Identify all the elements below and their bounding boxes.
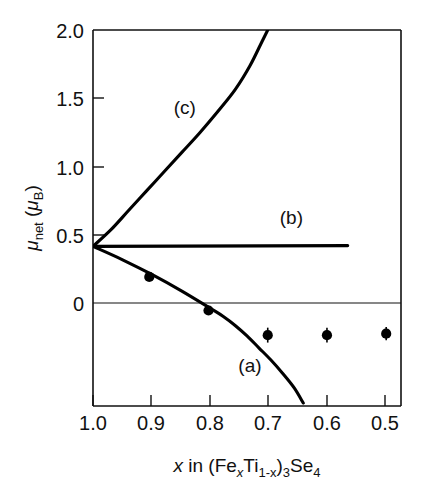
x-tick-label-1-0: 1.0 [79, 412, 107, 434]
chart-plot: 2.0 1.5 1.0 0.5 0 1.0 0.9 0.8 0.7 0.6 0.… [0, 0, 448, 485]
curve-label-c: (c) [174, 97, 196, 118]
x-tick-label-0-8: 0.8 [196, 412, 224, 434]
x-tick-label-0-7: 0.7 [254, 412, 282, 434]
curve-label-b: (b) [280, 207, 303, 228]
x-axis-title: x in (FexTi1-x)3Se4 [172, 455, 320, 480]
x-axis-ti-text: Ti [243, 455, 258, 476]
curve-a-path [93, 246, 303, 403]
data-point-marker [203, 305, 213, 315]
curve-b-path [93, 246, 348, 247]
x-axis-four-subscript: 4 [313, 465, 320, 480]
y-axis-title: μnet (μB) [21, 185, 46, 252]
y-tick-label-0-5: 0.5 [56, 225, 84, 247]
data-point-marker [263, 330, 273, 340]
x-axis-se-text: Se [290, 455, 313, 476]
x-axis-ti-subscript: 1-x [258, 465, 277, 480]
x-tick-label-0-5: 0.5 [371, 412, 399, 434]
x-axis-in-text: in (Fe [183, 455, 237, 476]
curve-c-path [93, 30, 268, 246]
data-point-marker [322, 330, 332, 340]
y-axis-b-subscript: B [31, 192, 46, 201]
y-axis-mu-symbol: μ [21, 240, 42, 252]
y-tick-label-2-0: 2.0 [56, 20, 84, 42]
y-axis-net-subscript: net [31, 222, 46, 240]
y-axis-mu-unit-symbol: μ [21, 200, 42, 212]
x-tick-label-0-9: 0.9 [137, 412, 165, 434]
y-axis-ticks [93, 98, 104, 235]
data-point-marker [144, 272, 154, 282]
y-tick-label-1-5: 1.5 [56, 88, 84, 110]
x-axis-ticks [93, 395, 385, 406]
y-tick-label-0: 0 [73, 293, 84, 315]
svg-text:μnet (μB): μnet (μB) [21, 185, 46, 252]
data-point-group [144, 272, 391, 343]
y-axis-close-paren: ) [21, 185, 42, 191]
plot-frame [93, 30, 401, 406]
x-axis-three-subscript: 3 [283, 465, 290, 480]
x-tick-label-0-6: 0.6 [313, 412, 341, 434]
y-tick-label-1-0: 1.0 [56, 157, 84, 179]
data-point-marker [381, 329, 391, 339]
curve-group [93, 30, 391, 403]
curve-label-a: (a) [238, 355, 261, 376]
y-axis-open-paren: ( [21, 210, 42, 222]
figure-container: 2.0 1.5 1.0 0.5 0 1.0 0.9 0.8 0.7 0.6 0.… [0, 0, 448, 485]
